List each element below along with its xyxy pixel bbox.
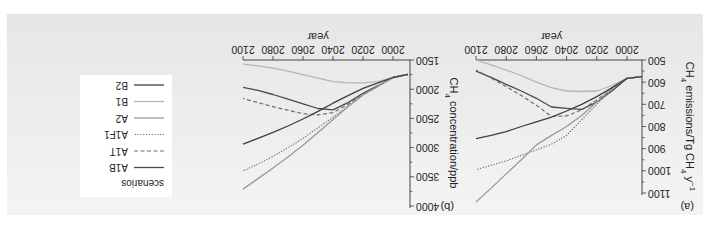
legend-label-a1b: A1B xyxy=(109,162,128,173)
y-tick-label: 1100 xyxy=(648,188,671,200)
panel-label: (b) xyxy=(441,201,454,213)
y-tick-label: 4000 xyxy=(416,201,440,213)
x-tick-label: 2040 xyxy=(321,44,345,56)
x-tick-label: 2040 xyxy=(555,44,579,56)
legend-label-b1: B1 xyxy=(115,96,128,107)
y-tick-label: 700 xyxy=(648,99,666,111)
x-tick-label: 2060 xyxy=(291,44,315,56)
y-tick-label: 900 xyxy=(648,143,666,155)
x-tick-label: 2000 xyxy=(381,44,405,56)
legend-label-a1f1: A1F1 xyxy=(104,129,128,140)
y-tick-label: 3500 xyxy=(416,171,440,183)
x-tick-label: 2000 xyxy=(615,44,639,56)
y-tick-label: 3000 xyxy=(416,142,440,154)
chart-canvas: 5006007008009001000110020002020204020602… xyxy=(0,0,706,229)
y-tick-label: 1000 xyxy=(648,165,672,177)
x-tick-label: 2100 xyxy=(231,44,255,56)
legend: scenariosA1BA1TA1F1A2B1B2 xyxy=(80,75,172,197)
y-tick-label: 600 xyxy=(648,77,666,89)
legend-label-b2: B2 xyxy=(115,80,128,91)
x-tick-label: 2080 xyxy=(494,44,518,56)
y-tick-label: 2500 xyxy=(416,113,440,125)
legend-label-a1t: A1T xyxy=(110,146,128,157)
y-tick-label: 500 xyxy=(648,55,666,67)
panel-label: (a) xyxy=(681,201,694,213)
x-tick-label: 2080 xyxy=(261,44,285,56)
y-tick-label: 1500 xyxy=(416,55,440,67)
legend-title: scenarios xyxy=(121,178,164,189)
legend-label-a2: A2 xyxy=(115,113,128,124)
x-tick-label: 2100 xyxy=(464,44,488,56)
x-axis-title: year xyxy=(540,31,562,43)
y-tick-label: 800 xyxy=(648,121,666,133)
y-tick-label: 2000 xyxy=(416,84,440,96)
x-tick-label: 2020 xyxy=(351,44,375,56)
x-axis-title: year xyxy=(307,31,329,43)
x-tick-label: 2060 xyxy=(525,44,549,56)
figure: 5006007008009001000110020002020204020602… xyxy=(0,0,706,229)
x-tick-label: 2020 xyxy=(585,44,609,56)
